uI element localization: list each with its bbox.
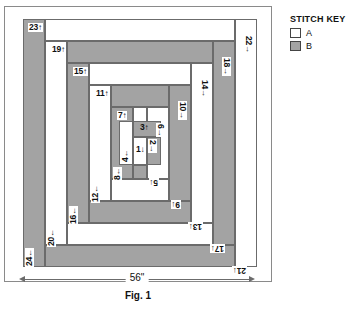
dimension-label: 56" [126, 272, 149, 283]
arrow-down-icon: ↓ [141, 145, 145, 154]
fabric-b-swatch [290, 41, 301, 51]
strip-11-block [111, 85, 169, 107]
arrow-down-icon: ↓ [189, 222, 193, 231]
strip-label-13: 13↓ [188, 222, 203, 231]
strip-19-block [67, 41, 213, 63]
arrow-right-icon: → [148, 145, 157, 153]
strip-5-block [133, 165, 147, 179]
diagram-panel: 23↑ 19↑ 15↑ 11↑ 7↑ 3↑ 1↓ 2→ [4, 6, 272, 282]
arrow-right-icon: → [222, 67, 231, 75]
figure-caption: Fig. 1 [4, 290, 272, 301]
strip-label-3: 3↑ [139, 123, 149, 132]
strip-20-block [45, 41, 67, 245]
arrow-down-icon: ↓ [172, 200, 176, 209]
arrow-right-icon: → [178, 111, 187, 119]
strip-9-block [111, 179, 169, 201]
arrow-down-icon: ↓ [150, 178, 154, 187]
arrow-up-icon: ↑ [123, 111, 127, 120]
strip-label-24: 24← [25, 248, 34, 267]
strip-15-block [89, 63, 191, 85]
arrow-left-icon: ← [91, 185, 100, 193]
arrow-right-icon: → [200, 89, 209, 97]
arrow-left-icon: ← [47, 229, 56, 237]
strip-label-8: 8← [113, 167, 122, 181]
stitch-key-label-b: B [306, 41, 312, 51]
arrow-right-icon: → [244, 45, 253, 53]
strip-label-12: 12← [91, 184, 100, 203]
arrow-left-icon: ← [69, 207, 78, 215]
strip-label-18: 18→ [222, 57, 231, 76]
strip-23-block [45, 19, 235, 41]
strip-16-block [67, 63, 89, 223]
stitch-key-label-a: A [306, 28, 312, 38]
arrow-up-icon: ↑ [145, 123, 149, 132]
arrow-up-icon: ↑ [83, 67, 87, 76]
strip-label-22: 22→ [244, 35, 253, 54]
stitch-key-row-b: B [290, 41, 356, 51]
arrow-left-icon: ← [113, 168, 122, 176]
strip-label-17: 17↓ [210, 244, 225, 253]
strip-label-5: 5↓ [149, 178, 159, 187]
strip-label-9: 9↓ [171, 200, 181, 209]
arrow-right-icon: → [156, 129, 165, 137]
strip-label-4: 4← [121, 149, 130, 163]
figure-root: 23↑ 19↑ 15↑ 11↑ 7↑ 3↑ 1↓ 2→ [0, 0, 360, 311]
strip-label-23: 23↑ [28, 23, 43, 32]
strip-label-19: 19↑ [51, 45, 66, 54]
strip-label-16: 16← [69, 206, 78, 225]
strip-21-block [45, 245, 235, 267]
strip-label-2: 2→ [148, 139, 157, 153]
stitch-key-row-a: A [290, 28, 356, 38]
arrow-down-icon: ↓ [211, 244, 215, 253]
strip-label-10: 10→ [178, 101, 187, 120]
width-dimension: 56" [19, 273, 255, 287]
strip-label-6: 6→ [156, 123, 165, 137]
fabric-a-swatch [290, 28, 301, 38]
arrow-up-icon: ↑ [105, 89, 109, 98]
arrow-up-icon: ↑ [38, 23, 42, 32]
arrow-up-icon: ↑ [61, 45, 65, 54]
strip-label-7: 7↑ [117, 111, 127, 120]
strip-label-20: 20← [47, 228, 56, 247]
strip-label-14: 14→ [200, 79, 209, 98]
strip-label-11: 11↑ [95, 89, 109, 98]
arrow-left-icon: ← [121, 150, 130, 158]
arrow-left-icon [19, 276, 25, 282]
arrow-right-icon [249, 276, 255, 282]
log-cabin-quilt-block: 23↑ 19↑ 15↑ 11↑ 7↑ 3↑ 1↓ 2→ [23, 19, 257, 267]
stitch-key: STITCH KEY A B [290, 14, 356, 54]
strip-label-1: 1↓ [135, 145, 145, 154]
strip-24-block [23, 19, 45, 267]
strip-label-15: 15↑ [73, 67, 88, 76]
arrow-left-icon: ← [25, 249, 34, 257]
strip-22-block [235, 19, 257, 267]
stitch-key-title: STITCH KEY [290, 14, 356, 24]
